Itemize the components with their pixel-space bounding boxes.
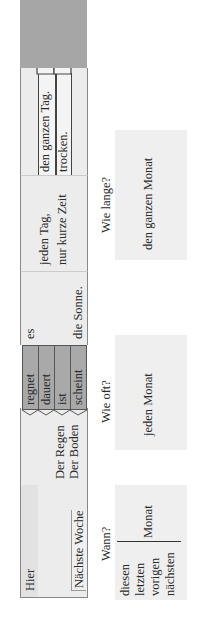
tab-den-ganzen-tag[interactable]: den ganzen Tag. bbox=[38, 73, 56, 175]
verb-block: regnet dauert ist scheint bbox=[22, 345, 87, 410]
wann-option-letzten: letzten bbox=[133, 563, 147, 596]
time-phrase: Nächste Woche bbox=[71, 510, 86, 591]
verb-regnet: regnet bbox=[23, 346, 39, 409]
wann-option-naechsten: nächsten bbox=[163, 552, 177, 596]
verb-dauert: dauert bbox=[39, 346, 55, 409]
die-sonne: die Sonne. bbox=[71, 286, 85, 339]
wann-option-diesen: diesen bbox=[118, 564, 132, 596]
frequency-box: jeden Tag, nur kurze Zeit bbox=[20, 176, 88, 272]
question-wann-label: Wann? bbox=[99, 527, 114, 561]
subject-box: Der Regen Der Boden bbox=[20, 408, 88, 485]
place-time-box: Hier Nächste Woche bbox=[20, 485, 88, 598]
wie-lange-answer: den ganzen Monat bbox=[141, 158, 155, 250]
textbook-page: Hier Nächste Woche Der Regen Der Boden r… bbox=[0, 0, 200, 623]
subject-line-2: Der Boden bbox=[67, 425, 81, 480]
subject-line-1: Der Regen bbox=[53, 425, 67, 479]
tab-trocken[interactable]: trocken. bbox=[56, 73, 72, 175]
tabs-box: den ganzen Tag. trocken. bbox=[20, 68, 88, 176]
question-wie-oft-box: jeden Monat bbox=[115, 335, 187, 450]
tab-label: trocken. bbox=[56, 131, 70, 172]
end-block bbox=[20, 0, 87, 68]
verb-ist: ist bbox=[55, 346, 71, 409]
question-wie-oft-label: Wie oft? bbox=[99, 380, 114, 423]
question-wie-lange-box: den ganzen Monat bbox=[115, 130, 187, 260]
verb-scheint: scheint bbox=[71, 346, 87, 409]
tab-label: den ganzen Tag. bbox=[38, 91, 52, 172]
frequency-jeden-tag: jeden Tag, bbox=[37, 213, 51, 265]
frequency-nur-kurze-zeit: nur kurze Zeit bbox=[55, 194, 69, 265]
pronoun-es: es bbox=[23, 329, 37, 339]
wann-divider bbox=[117, 541, 181, 542]
object-box: es die Sonne. bbox=[20, 272, 88, 345]
question-wie-lange-label: Wie lange? bbox=[99, 177, 114, 233]
question-wann-box: diesen letzten vorigen nächsten Monat bbox=[115, 485, 187, 600]
wie-oft-answer: jeden Monat bbox=[141, 373, 155, 436]
place-word: Hier bbox=[23, 569, 37, 591]
wann-option-vorigen: vorigen bbox=[148, 558, 162, 596]
zigzag-edge-icon bbox=[22, 407, 87, 417]
wann-noun-monat: Monat bbox=[141, 505, 155, 538]
